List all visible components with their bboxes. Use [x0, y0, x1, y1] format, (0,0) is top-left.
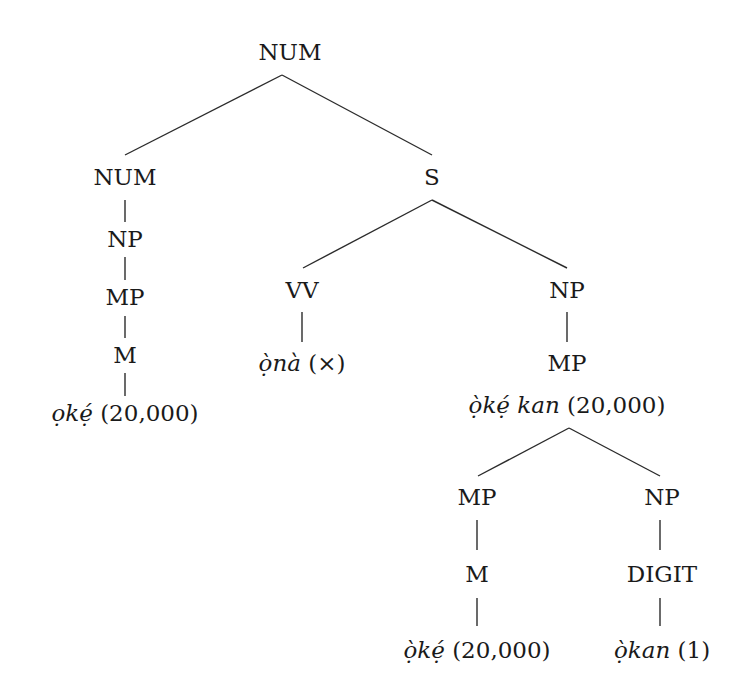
node-num-root: NUM	[258, 41, 321, 64]
edge-mp-npsub	[569, 428, 660, 476]
leaf-gloss: (20,000)	[445, 637, 551, 663]
edge-root-num	[125, 75, 282, 155]
leaf-gloss: (20,000)	[93, 400, 199, 426]
edge-mp-mpsub	[478, 428, 569, 476]
leaf-word: ọ̀kẹ́	[403, 637, 444, 663]
node-digit: DIGIT	[627, 563, 697, 586]
node-num-left: NUM	[93, 166, 156, 189]
syntax-tree-diagram: NUM NUM S NP MP M ọkẹ́ (20,000) VV ọ̀nà …	[0, 0, 752, 697]
leaf-ona: ọ̀nà (×)	[259, 352, 346, 375]
leaf-oke-left: ọkẹ́ (20,000)	[51, 402, 198, 425]
leaf-gloss: (1)	[670, 637, 710, 663]
leaf-gloss: (×)	[301, 350, 346, 376]
node-m-left: M	[113, 344, 137, 367]
node-np-right: NP	[549, 279, 585, 302]
node-oke-kan: ọ̀kẹ́ kan (20,000)	[469, 394, 666, 417]
node-np-sub: NP	[644, 486, 680, 509]
node-mp-right: MP	[547, 352, 586, 375]
node-mp-sub: MP	[457, 486, 496, 509]
leaf-word: ọkẹ́	[51, 400, 92, 426]
phrase-word: ọ̀kẹ́ kan	[469, 392, 560, 418]
leaf-okan: ọ̀kan (1)	[614, 639, 710, 662]
node-m-sub: M	[465, 563, 489, 586]
leaf-oke-sub: ọ̀kẹ́ (20,000)	[403, 639, 550, 662]
edge-root-s	[282, 75, 432, 155]
phrase-gloss: (20,000)	[560, 392, 666, 418]
node-mp-left: MP	[105, 286, 144, 309]
leaf-word: ọ̀nà	[259, 350, 301, 376]
leaf-word: ọ̀kan	[614, 637, 670, 663]
node-vv: VV	[285, 279, 318, 302]
node-s: S	[424, 166, 440, 189]
node-np-left: NP	[107, 228, 143, 251]
edge-s-np	[432, 200, 567, 268]
edge-s-vv	[303, 200, 432, 268]
